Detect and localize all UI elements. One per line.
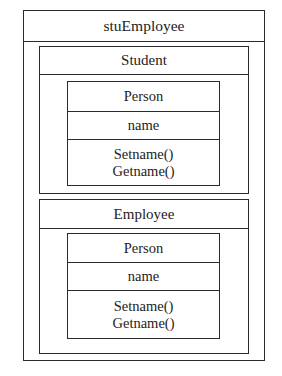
attribute-name: name	[128, 268, 159, 285]
class-person-employee: Person name Setname() Getname()	[67, 233, 220, 339]
class-person-methods: Setname() Getname()	[68, 291, 219, 338]
class-person-header: Person	[68, 82, 219, 112]
class-stuemployee-title: stuEmployee	[104, 17, 185, 35]
class-person-attributes: name	[68, 112, 219, 140]
class-person-student: Person name Setname() Getname()	[67, 81, 220, 186]
class-person-title: Person	[124, 88, 163, 105]
class-person-title: Person	[124, 240, 163, 257]
method-setname: Setname()	[114, 298, 174, 315]
class-employee-header: Employee	[40, 200, 248, 229]
class-student-title: Student	[121, 52, 167, 69]
class-employee-title: Employee	[114, 206, 175, 223]
class-person-attributes: name	[68, 263, 219, 291]
class-stuemployee-header: stuEmployee	[24, 11, 264, 42]
attribute-name: name	[128, 117, 159, 134]
class-student-header: Student	[40, 47, 248, 75]
method-setname: Setname()	[114, 146, 174, 163]
class-person-methods: Setname() Getname()	[68, 140, 219, 185]
class-person-header: Person	[68, 234, 219, 263]
method-getname: Getname()	[113, 163, 175, 180]
method-getname: Getname()	[113, 315, 175, 332]
